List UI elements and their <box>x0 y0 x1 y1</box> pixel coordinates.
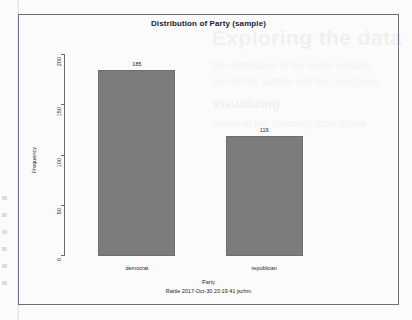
y-axis-label: Frequency <box>31 147 37 173</box>
y-axis-line <box>64 55 65 256</box>
chart-plot-frame: Distribution of Party (sample) Frequency… <box>18 14 399 305</box>
y-tick-label-0: 0 <box>56 258 62 261</box>
y-tick-150 <box>61 104 65 105</box>
y-tick-label-200: 200 <box>56 57 62 66</box>
bar-republican[interactable] <box>226 136 303 256</box>
x-category-label-democrat: democrat <box>98 265 175 271</box>
bar-democrat[interactable] <box>98 70 175 256</box>
y-tick-200 <box>61 54 65 55</box>
bar-value-label: 185 <box>98 61 175 67</box>
bar-group[interactable]: 119republican <box>226 55 303 256</box>
y-tick-label-100: 100 <box>56 158 62 167</box>
bar-series: 185democrat119republican <box>66 55 386 256</box>
y-tick-100 <box>61 155 65 156</box>
chart-footer-timestamp: Rattle 2017-Oct-30 20:19:41 jschm <box>19 288 398 294</box>
chart-plot-area: 185democrat119republican <box>66 55 386 256</box>
y-tick-label-150: 150 <box>56 107 62 116</box>
bar-group[interactable]: 185democrat <box>98 55 175 256</box>
bar-value-label: 119 <box>226 127 303 133</box>
y-axis: 050100150200 <box>51 55 65 256</box>
chart-title: Distribution of Party (sample) <box>19 19 398 28</box>
y-tick-50 <box>61 205 65 206</box>
y-tick-label-50: 50 <box>56 208 62 214</box>
x-category-label-republican: republican <box>226 265 303 271</box>
x-axis-label: Party <box>19 279 398 285</box>
page-edge-marks <box>2 196 10 298</box>
y-tick-0 <box>61 255 65 256</box>
